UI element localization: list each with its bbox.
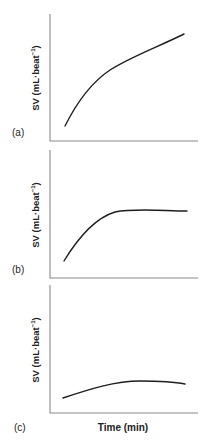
panel-b-y-axis-label: SV (mL·beat−1) xyxy=(30,182,41,247)
panel-a-curve xyxy=(65,34,184,126)
panel-a-y-axis-label: SV (mL·beat−1) xyxy=(30,45,41,110)
panel-a-label: (a) xyxy=(12,127,24,138)
chart-figure: SV (mL·beat−1) (a) SV (mL·beat−1) (b) SV… xyxy=(0,0,207,445)
panel-a-axes xyxy=(50,14,198,141)
panel-b-axes xyxy=(50,150,198,278)
panel-c-curve xyxy=(63,381,185,398)
panel-c-label: (c) xyxy=(14,422,26,433)
panel-c: SV (mL·beat−1) (c) Time (min) xyxy=(14,285,198,433)
panel-c-axes xyxy=(50,285,198,413)
panel-b-curve xyxy=(64,210,187,261)
x-axis-label: Time (min) xyxy=(98,422,148,433)
panel-a: SV (mL·beat−1) (a) xyxy=(12,14,198,141)
panel-b: SV (mL·beat−1) (b) xyxy=(12,150,198,278)
panel-b-label: (b) xyxy=(12,264,24,275)
panel-c-y-axis-label: SV (mL·beat−1) xyxy=(30,317,41,382)
